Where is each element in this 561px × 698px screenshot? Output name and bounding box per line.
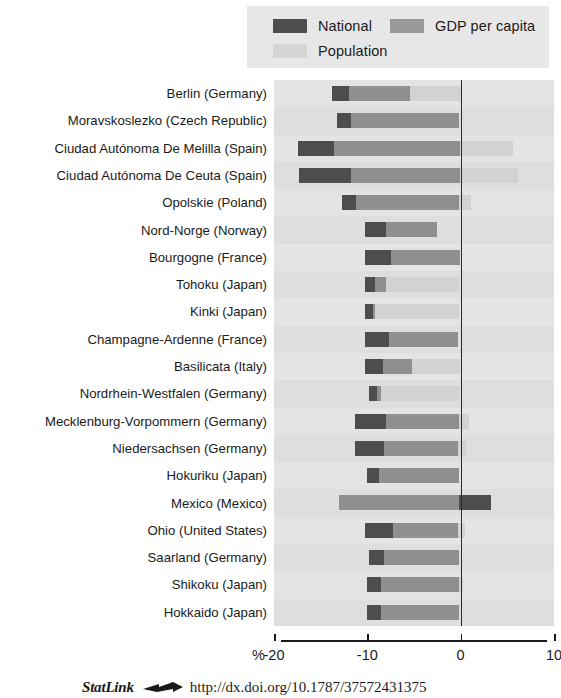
zero-axis-line — [461, 216, 463, 243]
category-label: Shikoku (Japan) — [0, 578, 274, 591]
legend-swatch-population — [273, 44, 307, 58]
category-label: Nordrhein-Westfalen (Germany) — [0, 387, 274, 400]
statlink-url: http://dx.doi.org/10.1787/37572431375 — [190, 679, 427, 696]
legend-swatch-national — [273, 19, 307, 33]
bar-track — [274, 216, 554, 243]
bar-segment-gdp-per-capita — [349, 86, 411, 101]
bar-segment-national — [342, 195, 356, 210]
zero-axis-line — [461, 298, 463, 325]
category-label: Kinki (Japan) — [0, 305, 274, 318]
zero-axis-line — [461, 380, 463, 407]
zero-axis-line — [461, 408, 463, 435]
legend-row-1: National GDP per capita — [273, 13, 549, 38]
legend-label-population: Population — [318, 43, 388, 59]
bar-segment-population — [412, 359, 460, 374]
category-label: Opolskie (Poland) — [0, 196, 274, 209]
category-label: Bourgogne (France) — [0, 251, 274, 264]
bar-segment-gdp-per-capita — [339, 495, 458, 510]
chart-row: Hokuriku (Japan) — [0, 462, 561, 489]
bar-segment-gdp-per-capita — [381, 605, 458, 620]
legend-entry-national: National — [273, 18, 372, 34]
chart-row: Nordrhein-Westfalen (Germany) — [0, 380, 561, 407]
category-label: Niedersachsen (Germany) — [0, 442, 274, 455]
bar-track — [274, 380, 554, 407]
bar-track — [274, 408, 554, 435]
x-axis-unit-label: % — [252, 647, 265, 663]
chart-row: Bourgogne (France) — [0, 244, 561, 271]
bar-segment-national — [298, 141, 333, 156]
chart-row: Ciudad Autónoma De Melilla (Spain) — [0, 135, 561, 162]
bar-segment-national — [365, 359, 383, 374]
zero-axis-line — [461, 107, 463, 134]
x-axis-tick — [367, 634, 369, 641]
category-label: Saarland (Germany) — [0, 551, 274, 564]
bar-track — [274, 271, 554, 298]
bar-segment-national — [369, 550, 384, 565]
category-label: Basilicata (Italy) — [0, 360, 274, 373]
zero-axis-line — [461, 489, 463, 516]
x-axis-line — [281, 640, 547, 642]
x-axis-tick-label: -20 — [264, 647, 285, 663]
bar-track — [274, 135, 554, 162]
bar-segment-gdp-per-capita — [351, 168, 460, 183]
zero-axis-line — [461, 462, 463, 489]
bar-segment-gdp-per-capita — [391, 250, 460, 265]
bar-segment-national — [367, 605, 381, 620]
statlink-label: StatLink — [82, 679, 134, 696]
bar-segment-national — [365, 304, 372, 319]
category-label: Moravskoslezko (Czech Republic) — [0, 114, 274, 127]
x-axis: -20-10010 — [0, 640, 561, 670]
category-label: Hokuriku (Japan) — [0, 469, 274, 482]
bar-segment-population — [386, 277, 459, 292]
bar-segment-national — [459, 495, 491, 510]
chart-row: Nord-Norge (Norway) — [0, 216, 561, 243]
category-label: Ciudad Autónoma De Ceuta (Spain) — [0, 169, 274, 182]
x-axis-tick — [461, 634, 463, 641]
bar-segment-gdp-per-capita — [373, 304, 375, 319]
chart-row: Champagne-Ardenne (France) — [0, 326, 561, 353]
bar-segment-gdp-per-capita — [356, 195, 459, 210]
bar-segment-gdp-per-capita — [384, 441, 458, 456]
bar-segment-national — [355, 441, 384, 456]
legend-entry-population: Population — [273, 43, 388, 59]
chart-row: Basilicata (Italy) — [0, 353, 561, 380]
bar-segment-gdp-per-capita — [384, 550, 459, 565]
category-label: Berlin (Germany) — [0, 87, 274, 100]
bar-track — [274, 244, 554, 271]
chart-plot-area: Berlin (Germany)Moravskoslezko (Czech Re… — [0, 80, 561, 640]
bar-segment-gdp-per-capita — [386, 222, 437, 237]
category-label: Champagne-Ardenne (France) — [0, 333, 274, 346]
x-axis-tick-label: 10 — [546, 647, 561, 663]
bar-segment-national — [365, 523, 394, 538]
bar-segment-national — [367, 577, 381, 592]
bar-track — [274, 353, 554, 380]
zero-axis-line — [461, 435, 463, 462]
legend-entry-gdp-per-capita: GDP per capita — [390, 18, 535, 34]
bar-segment-gdp-per-capita — [379, 468, 458, 483]
chart-row: Opolskie (Poland) — [0, 189, 561, 216]
chart-row: Niedersachsen (Germany) — [0, 435, 561, 462]
bar-track — [274, 489, 554, 516]
bar-track — [274, 599, 554, 626]
bar-segment-population — [460, 168, 518, 183]
bar-segment-national — [367, 468, 379, 483]
bar-segment-gdp-per-capita — [386, 414, 459, 429]
bar-segment-national — [365, 332, 388, 347]
bar-track — [274, 326, 554, 353]
bar-segment-gdp-per-capita — [377, 386, 382, 401]
zero-axis-line — [461, 517, 463, 544]
bar-segment-gdp-per-capita — [393, 523, 457, 538]
category-label: Ciudad Autónoma De Melilla (Spain) — [0, 142, 274, 155]
chart-row: Hokkaido (Japan) — [0, 599, 561, 626]
zero-axis-line — [461, 571, 463, 598]
chart-row: Ohio (United States) — [0, 517, 561, 544]
bar-segment-national — [365, 250, 390, 265]
bar-track — [274, 162, 554, 189]
zero-axis-line — [461, 80, 463, 107]
bar-track — [274, 571, 554, 598]
category-label: Nord-Norge (Norway) — [0, 224, 274, 237]
zero-axis-line — [461, 189, 463, 216]
bar-track — [274, 189, 554, 216]
category-label: Mecklenburg-Vorpommern (Germany) — [0, 415, 274, 428]
chart-row: Mexico (Mexico) — [0, 489, 561, 516]
